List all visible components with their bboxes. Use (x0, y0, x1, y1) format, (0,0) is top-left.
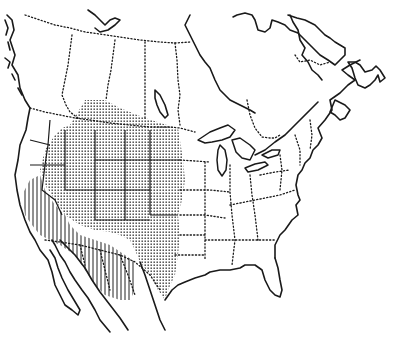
ontario-quebec-border (247, 100, 280, 138)
newfoundland (348, 62, 385, 88)
lake-michigan (217, 145, 227, 176)
nova-scotia (330, 100, 350, 120)
quebec-labrador-border (295, 55, 330, 65)
manitoba-ontario-border (175, 43, 180, 125)
hudson-bay-east-coast (233, 13, 345, 65)
lake-winnipeg (155, 90, 168, 118)
bc-alberta-border (62, 35, 78, 118)
atlantic-coastline (275, 60, 360, 258)
lake-superior (198, 125, 235, 143)
north-america-map (0, 0, 397, 343)
range-map (0, 0, 397, 343)
lake-huron (232, 138, 255, 160)
st-lawrence-river (255, 102, 318, 155)
hudson-bay-west-coast (185, 15, 255, 113)
lake-erie (245, 162, 268, 172)
hudson-bay-inlet (88, 10, 120, 32)
canada-territory-border (25, 15, 190, 43)
labrador-coast (290, 15, 322, 80)
alberta-sask-border (106, 40, 115, 100)
lake-ontario (262, 150, 280, 158)
